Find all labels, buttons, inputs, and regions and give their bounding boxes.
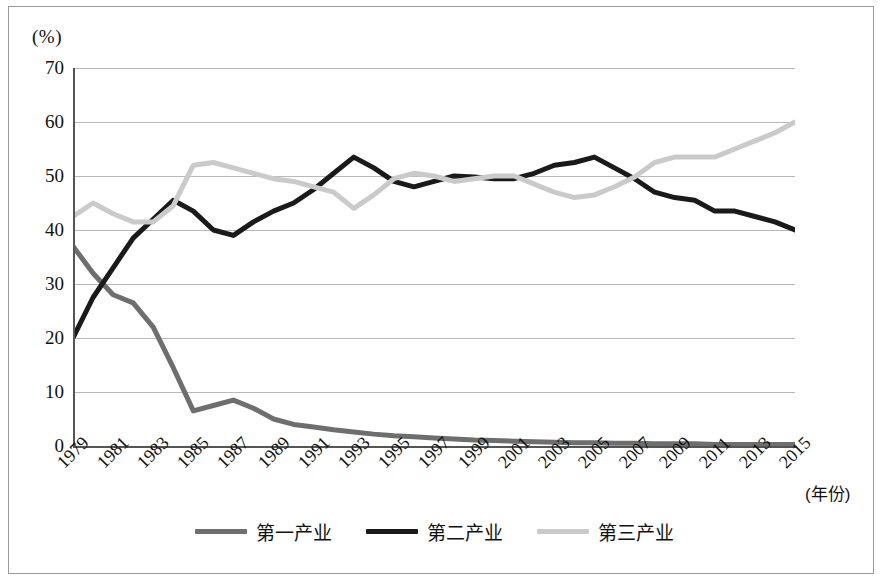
legend-swatch-icon — [195, 529, 247, 534]
plot-area — [73, 68, 795, 446]
legend-swatch-icon — [537, 529, 589, 534]
y-tick-label: 20 — [18, 327, 64, 349]
legend-item[interactable]: 第二产业 — [366, 518, 503, 545]
y-tick-label: 0 — [18, 435, 64, 457]
chart-figure: (%) 010203040506070 19791981198319851987… — [0, 0, 884, 582]
x-axis-line — [73, 446, 797, 448]
y-tick-label: 30 — [18, 273, 64, 295]
y-tick-label: 60 — [18, 111, 64, 133]
y-tick-label: 50 — [18, 165, 64, 187]
chart-legend: 第一产业第二产业第三产业 — [73, 518, 795, 545]
y-axis-line — [73, 68, 75, 448]
y-tick-label: 70 — [18, 57, 64, 79]
legend-label: 第二产业 — [427, 518, 503, 545]
y-tick-label: 10 — [18, 381, 64, 403]
legend-label: 第一产业 — [256, 518, 332, 545]
series-line — [73, 246, 795, 444]
legend-swatch-icon — [366, 529, 418, 534]
legend-item[interactable]: 第一产业 — [195, 518, 332, 545]
legend-item[interactable]: 第三产业 — [537, 518, 674, 545]
y-tick-label: 40 — [18, 219, 64, 241]
legend-label: 第三产业 — [598, 518, 674, 545]
y-axis-tick-labels: 010203040506070 — [14, 68, 64, 446]
series-lines — [73, 68, 795, 446]
y-axis-unit-label: (%) — [32, 26, 62, 48]
